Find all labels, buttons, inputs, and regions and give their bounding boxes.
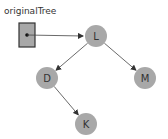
edge-L-M [104, 43, 136, 70]
binary-tree-diagram: originalTree LDMK [0, 0, 168, 139]
tree-node-L: L [85, 25, 107, 47]
node-label: D [43, 73, 51, 84]
pointer-label: originalTree [4, 6, 57, 16]
node-label: K [83, 119, 90, 130]
node-label: L [93, 31, 99, 42]
edge-L-D [56, 43, 88, 70]
tree-node-K: K [75, 113, 97, 135]
tree-node-D: D [36, 67, 58, 89]
edge-D-K [54, 86, 78, 114]
tree-node-M: M [134, 67, 156, 89]
node-label: M [141, 73, 150, 84]
